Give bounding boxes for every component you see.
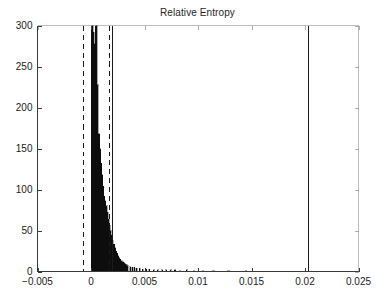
x-tick-label: 0.025 — [346, 276, 371, 287]
axis-spines — [38, 26, 359, 272]
y-tick-label: 250 — [16, 61, 33, 72]
y-tick-label: 200 — [16, 102, 33, 113]
y-tick-label: 0 — [27, 266, 33, 277]
axis-box-top-right — [38, 26, 359, 272]
x-axis-tick-labels: −0.00500.0050.010.0150.020.025 — [22, 276, 371, 287]
axes-frame — [38, 26, 359, 272]
histogram-bar — [134, 267, 135, 271]
histogram-bar — [130, 267, 131, 272]
figure-canvas: Relative Entropy −0.00500.0050.010.0150.… — [0, 0, 386, 300]
x-tick-label: 0.02 — [295, 276, 315, 287]
histogram-bar — [127, 266, 128, 272]
vertical-marker-lines — [84, 26, 309, 272]
y-tick-label: 150 — [16, 143, 33, 154]
y-tick-label: 50 — [21, 225, 33, 236]
x-tick-label: 0.01 — [188, 276, 208, 287]
y-tick-label: 300 — [16, 20, 33, 31]
x-tick-label: 0.005 — [132, 276, 157, 287]
histogram-plot: −0.00500.0050.010.0150.020.025 050100150… — [0, 0, 386, 300]
axis-ticks — [38, 26, 360, 273]
histogram-bar — [132, 267, 133, 271]
y-tick-label: 100 — [16, 184, 33, 195]
x-tick-label: −0.005 — [22, 276, 53, 287]
x-tick-label: 0.015 — [239, 276, 264, 287]
y-axis-tick-labels: 050100150200250300 — [16, 20, 33, 277]
histogram-bars — [91, 26, 246, 272]
x-tick-label: 0 — [88, 276, 94, 287]
